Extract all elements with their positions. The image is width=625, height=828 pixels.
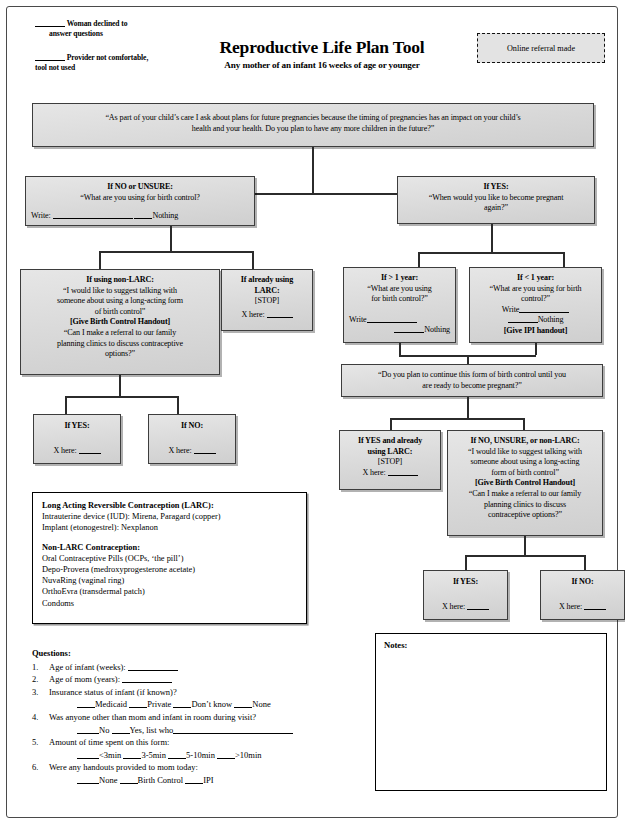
q4-yes-list-blank[interactable] — [173, 733, 293, 734]
connector — [99, 251, 101, 270]
gt-1-year-line1: “What are you using — [349, 284, 450, 295]
lt-1-year-nothing-blank[interactable] — [508, 322, 538, 323]
non-larc-line4: “Can I make a referral to our family — [26, 328, 214, 339]
provider-not-comfortable-blank[interactable] — [35, 60, 65, 61]
left-if-no-box: If NO: X here: — [148, 414, 236, 464]
legend-non-larc-item-1: Oral Contraceptive Pills (OCPs, ‘the pil… — [42, 553, 297, 564]
question-2-answer-blank[interactable] — [122, 682, 172, 683]
connector — [399, 343, 401, 355]
legend-non-larc-item-5: Condoms — [42, 598, 297, 609]
lt-1-year-nothing-label: Nothing — [538, 315, 564, 324]
connector — [465, 555, 467, 571]
legend-non-larc-heading: Non-LARC Contraception: — [42, 542, 297, 553]
lt-1-year-line2: control?” — [475, 294, 596, 305]
gt-1-year-heading: If > 1 year: — [381, 273, 418, 282]
q6-none-blank[interactable] — [77, 783, 99, 784]
online-referral-box[interactable]: Online referral made — [477, 33, 605, 63]
gt-1-year-nothing-blank[interactable] — [394, 332, 424, 333]
yes-already-larc-x-here-blank[interactable] — [388, 475, 418, 476]
provider-not-comfortable-line1: Provider not comfortable, — [67, 53, 148, 62]
q5-5-10min-blank[interactable] — [168, 758, 186, 759]
already-larc-x-here-label: X here: — [241, 310, 264, 319]
questions-section: Questions: 1. Age of infant (weeks): 2. … — [32, 647, 362, 787]
gt-1-year-nothing-label: Nothing — [424, 325, 450, 334]
no-unsure-nonlarc-handout: [Give Birth Control Handout] — [475, 478, 575, 487]
lt-1-year-write-blank[interactable] — [519, 312, 569, 313]
if-no-or-unsure-nothing-blank[interactable] — [134, 218, 152, 219]
non-larc-line2: someone about using a long-acting form — [26, 296, 214, 307]
q3-dont-know-blank[interactable] — [173, 707, 191, 708]
question-6-row: 6. Were any handouts provided to mom tod… — [32, 761, 362, 774]
connector — [465, 555, 585, 557]
already-larc-heading1: If already using — [241, 275, 293, 284]
left-if-no-heading: If NO: — [181, 421, 203, 430]
left-if-no-x-here-label: X here: — [168, 446, 191, 455]
q3-option-medicaid: Medicaid — [95, 699, 127, 709]
connector — [177, 396, 179, 415]
question-6-text: Were any handouts provided to mom today: — [49, 761, 198, 774]
q3-medicaid-blank[interactable] — [77, 707, 95, 708]
left-if-yes-box: If YES: X here: — [33, 414, 121, 464]
if-yes-box: If YES: “When would you like to become p… — [397, 176, 595, 224]
q5-3-5min-blank[interactable] — [123, 758, 141, 759]
if-already-using-larc-box: If already using LARC: [STOP] X here: — [221, 269, 313, 331]
right-if-yes-x-here-blank[interactable] — [467, 609, 489, 610]
connector — [524, 536, 526, 555]
right-if-no-x-here-blank[interactable] — [584, 609, 606, 610]
if-no-unsure-or-non-larc-box: If NO, UNSURE, or non-LARC: “I would lik… — [447, 430, 603, 536]
q6-ipi-blank[interactable] — [185, 783, 203, 784]
q5-over-10min-blank[interactable] — [217, 758, 235, 759]
provider-not-comfortable-line2: tool not used — [35, 63, 160, 73]
legend-larc-item-2: Implant (etonogestrel): Nexplanon — [42, 522, 297, 533]
legend-larc-heading: Long Acting Reversible Contraception (LA… — [42, 500, 297, 511]
q3-none-blank[interactable] — [234, 707, 252, 708]
question-5-text: Amount of time spent on this form: — [49, 736, 169, 749]
if-greater-than-1-year-box: If > 1 year: “What are you using for bir… — [343, 267, 456, 343]
connector — [312, 147, 314, 177]
notes-box[interactable]: Notes: — [375, 633, 607, 791]
question-3-row: 3. Insurance status of infant (if known)… — [32, 686, 362, 699]
connector — [65, 396, 67, 415]
connector — [535, 343, 537, 355]
form-page: Woman declined to answer questions Provi… — [6, 6, 618, 818]
question-6-options: None Birth Control IPI — [32, 774, 362, 787]
form-header: Woman declined to answer questions Provi… — [7, 7, 619, 85]
q3-option-none: None — [252, 699, 270, 709]
already-larc-heading2: LARC: — [254, 286, 279, 295]
left-if-yes-x-here-blank[interactable] — [79, 453, 101, 454]
if-no-or-unsure-write-blank[interactable] — [53, 218, 133, 219]
yes-already-larc-heading1: If YES and already — [358, 436, 422, 445]
continue-question-line1: “Do you plan to continue this form of bi… — [347, 370, 597, 381]
if-yes-line1: “When would you like to become pregnant — [403, 193, 589, 204]
question-3-number: 3. — [32, 686, 49, 699]
gt-1-year-write-blank[interactable] — [367, 322, 417, 323]
legend-non-larc-item-2: Depo-Provera (medroxyprogesterone acetat… — [42, 564, 297, 575]
left-if-no-x-here-blank[interactable] — [194, 453, 216, 454]
woman-declined-line1: Woman declined to — [67, 19, 128, 28]
root-prompt-line1: “As part of your child’s care I ask abou… — [38, 113, 588, 124]
already-larc-x-here-blank[interactable] — [267, 317, 293, 318]
yes-already-larc-x-here-label: X here: — [362, 468, 385, 477]
legend-larc-item-1: Intrauterine device (IUD): Mirena, Parag… — [42, 511, 297, 522]
woman-declined-blank[interactable] — [35, 26, 65, 27]
title-block: Reproductive Life Plan Tool Any mother o… — [177, 37, 467, 70]
right-if-yes-heading: If YES: — [453, 577, 478, 586]
woman-declined-note: Woman declined to answer questions — [35, 19, 155, 39]
gt-1-year-line2: for birth control?” — [349, 294, 450, 305]
question-1-answer-blank[interactable] — [128, 670, 178, 671]
question-4-row: 4. Was anyone other than mom and infant … — [32, 711, 362, 724]
connector — [99, 251, 253, 253]
question-5-options: <3min 3-5min 5-10min >10min — [32, 749, 362, 762]
q6-birth-control-blank[interactable] — [120, 783, 138, 784]
yes-already-larc-heading2: using LARC: — [368, 447, 413, 456]
q5-under-3min-blank[interactable] — [77, 758, 99, 759]
already-larc-stop: [STOP] — [227, 296, 307, 307]
q4-no-blank[interactable] — [77, 733, 99, 734]
question-1-row: 1. Age of infant (weeks): — [32, 661, 362, 674]
connector — [584, 555, 586, 571]
q3-private-blank[interactable] — [129, 707, 147, 708]
lt-1-year-write-label: Write — [502, 305, 520, 314]
no-unsure-nonlarc-heading: If NO, UNSURE, or non-LARC: — [470, 436, 579, 445]
connector — [312, 175, 314, 194]
q4-yes-blank[interactable] — [112, 733, 130, 734]
